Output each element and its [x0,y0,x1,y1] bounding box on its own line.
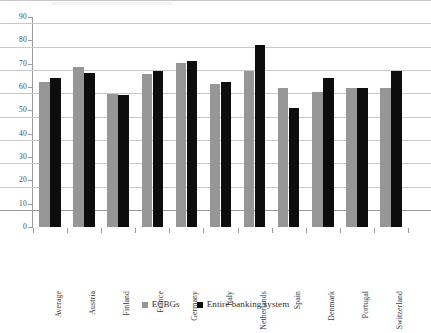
x-tick-0 [33,228,34,233]
y-tick-20 [28,180,33,181]
bar-denmark-ecbgs [312,92,323,227]
bar-average-entire-banking-system [50,78,61,227]
x-tick-9 [340,228,341,233]
bar-germany-ecbgs [176,63,187,227]
bar-group-spain [272,17,306,227]
gridline-90 [0,0,431,1]
bar-austria-ecbgs [73,67,84,227]
bar-france-entire-banking-system [153,71,164,227]
x-axis-labels: AverageAustriaFinlandFranceGermanyItalyN… [33,231,408,293]
bar-group-denmark [306,17,340,227]
x-tick-end [408,228,409,233]
bar-denmark-entire-banking-system [323,78,334,227]
x-tick-5 [203,228,204,233]
bar-finland-ecbgs [107,94,118,227]
y-tick-50 [28,110,33,111]
y-tick-90 [28,17,33,18]
bar-austria-entire-banking-system [84,73,95,227]
x-tick-3 [135,228,136,233]
bar-chart: 9080706050403020100 AverageAustriaFinlan… [0,0,431,333]
bar-netherlands-entire-banking-system [255,45,266,227]
bar-group-average [33,17,67,227]
x-tick-4 [169,228,170,233]
legend-item-ecbgs: ECBGs [142,299,180,310]
bar-average-ecbgs [39,82,50,227]
bar-group-austria [67,17,101,227]
bar-group-italy [203,17,237,227]
bar-spain-ecbgs [278,88,289,227]
x-tick-1 [67,228,68,233]
bar-france-ecbgs [142,74,153,227]
y-tick-60 [28,87,33,88]
bar-group-portugal [340,17,374,227]
y-tick-10 [28,204,33,205]
legend-swatch-ecbgs-icon [142,302,148,308]
legend-item-entire-banking-system: Entire banking system [197,299,290,310]
bar-group-france [135,17,169,227]
x-tick-2 [101,228,102,233]
x-tick-7 [272,228,273,233]
bar-portugal-entire-banking-system [357,88,368,227]
legend-label-ecbgs: ECBGs [152,299,180,310]
legend-label-entire-banking-system: Entire banking system [207,299,290,310]
bar-spain-entire-banking-system [289,108,300,227]
x-axis-label-switzerland: Switzerland [395,291,404,329]
bar-portugal-ecbgs [346,88,357,227]
bar-switzerland-ecbgs [380,88,391,227]
x-tick-6 [238,228,239,233]
bar-switzerland-entire-banking-system [391,71,402,227]
bar-germany-entire-banking-system [187,61,198,227]
x-tick-8 [306,228,307,233]
y-tick-70 [28,64,33,65]
y-tick-80 [28,40,33,41]
bar-group-switzerland [374,17,408,227]
y-tick-30 [28,157,33,158]
y-tick-40 [28,134,33,135]
bar-group-germany [169,17,203,227]
chart-legend: ECBGs Entire banking system [0,299,431,310]
legend-swatch-entire-banking-system-icon [197,302,203,308]
bar-groups [33,17,408,227]
bar-netherlands-ecbgs [244,71,255,227]
bar-finland-entire-banking-system [118,95,129,227]
bar-group-finland [101,17,135,227]
x-axis-label-netherlands: Netherlands [259,291,268,330]
bar-italy-ecbgs [210,84,221,228]
bar-italy-entire-banking-system [221,82,232,227]
bar-group-netherlands [238,17,272,227]
x-tick-10 [374,228,375,233]
